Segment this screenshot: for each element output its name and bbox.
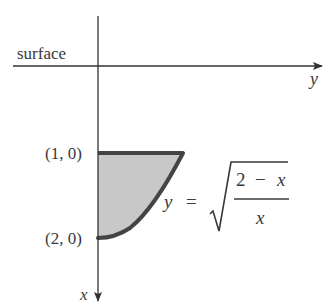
y-axis-label: y [308,69,318,89]
equation-equals: = [186,191,197,212]
equation-lhs: y [162,191,173,212]
diagram-canvas: surface y x (1, 0) (2, 0) y = 2 − x x [0,0,334,308]
fraction-numerator-minus: − [255,169,266,190]
surface-label: surface [17,44,66,63]
x-axis-label: x [79,285,88,304]
fraction-numerator-2: 2 [236,169,246,190]
point-label-1-0: (1, 0) [45,144,82,163]
fraction-denominator-x: x [255,207,265,228]
fraction-numerator-x: x [276,169,286,190]
point-label-2-0: (2, 0) [45,229,82,248]
